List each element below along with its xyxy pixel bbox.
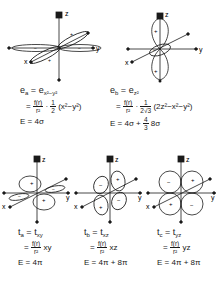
minus-sign: − [99, 182, 103, 188]
y-axis-label: y [138, 194, 142, 202]
minus-sign: − [153, 47, 156, 53]
dz2-orbital-drawing: z y x + + − [108, 0, 218, 84]
orbital-diagram-tb: z y x + + − − [72, 152, 144, 224]
plus-sign: + [48, 57, 51, 63]
x-axis-label: x [2, 203, 6, 210]
minus-sign: − [18, 193, 21, 199]
y-axis-label: y [96, 45, 100, 53]
orbital-diagram-ta: z y x + + − − [0, 152, 72, 224]
energy-value: 8σ [151, 119, 160, 128]
orbital-diagram-ea: z y x + + − − [0, 0, 110, 82]
equation-eb: eb = ez² = f(r)r² · 12√3 (2z²−x²−y²) E =… [110, 86, 193, 131]
subscript: xy [37, 232, 43, 238]
equation-tc: tc = tyz = f(r)r² yz E = 4π + 8π [157, 228, 201, 267]
dxz-orbital-drawing: z y x + + − − [72, 152, 144, 224]
subscript: x²−y² [44, 90, 58, 96]
plus-sign: + [70, 31, 73, 37]
x-axis-label: x [74, 203, 78, 210]
dxy-orbital-drawing: z y x + + − − [0, 152, 72, 224]
subscript: yz [175, 232, 181, 238]
fraction: f(r)r² [33, 99, 43, 114]
minus-sign: − [78, 45, 81, 51]
polynomial: (2z²−x²−y²) [153, 102, 192, 111]
y-axis-label: y [211, 194, 215, 202]
energy-label: E [84, 258, 89, 267]
plus-sign: + [30, 180, 34, 186]
minus-sign: − [190, 202, 194, 208]
z-axis-label: z [186, 156, 190, 163]
energy-value: = 4σ [28, 117, 44, 126]
orbital-diagram-eb: z y x + + − [108, 0, 218, 84]
plus-sign: + [154, 28, 158, 34]
energy-value: = 4π + 8π [92, 258, 128, 267]
fraction: f(r)r² [97, 240, 107, 255]
equation-ta: ta = txy = f(r)r² xy E = 4π [18, 228, 51, 267]
x-axis-label: x [125, 59, 129, 66]
energy-label: E [18, 258, 23, 267]
fraction: f(r)r² [170, 240, 180, 255]
subscript: xz [103, 232, 109, 238]
polynomial: yz [182, 243, 190, 252]
plus-sign: + [99, 204, 103, 210]
equation-tb: tb = txz = f(r)r² xz E = 4π + 8π [84, 228, 128, 267]
subscript: a [21, 232, 24, 238]
fraction: 12 [50, 99, 56, 114]
energy-label: E [157, 258, 162, 267]
equation-ea: ea = ex²−y² = f(r)r² · 12 (x²−y²) E = 4σ [20, 86, 82, 126]
plus-sign: + [42, 197, 46, 203]
orbital-diagram-tc: z y x + + − − [144, 152, 218, 224]
minus-sign: − [34, 45, 37, 51]
subscript: b [87, 232, 90, 238]
polynomial: xz [109, 243, 117, 252]
minus-sign: − [117, 197, 121, 203]
fraction: f(r)r² [123, 99, 133, 114]
plus-sign: + [116, 176, 120, 182]
energy-value: = 4σ + [118, 119, 143, 128]
dx2-y2-orbital-drawing: z y x + + − − [0, 0, 110, 82]
z-axis-label: z [65, 10, 69, 17]
plus-sign: + [154, 68, 158, 74]
fraction: f(r)r² [31, 240, 41, 255]
y-axis-label: y [199, 46, 203, 54]
subscript: a [25, 90, 28, 96]
minus-sign: − [52, 186, 55, 192]
subscript: c [160, 232, 163, 238]
plus-sign: + [169, 201, 173, 207]
polynomial: (x²−y²) [58, 102, 81, 111]
z-axis-label: z [115, 156, 119, 163]
z-axis-label: z [42, 156, 46, 163]
minus-sign: − [167, 179, 171, 185]
subscript: z² [134, 90, 139, 96]
energy-value: = 4π + 8π [165, 258, 201, 267]
plus-sign: + [191, 177, 195, 183]
fraction: 43 [143, 116, 149, 131]
y-axis-label: y [66, 194, 70, 202]
dyz-orbital-drawing: z y x + + − − [144, 152, 218, 224]
x-axis-label: x [146, 203, 150, 210]
energy-label: E [110, 119, 115, 128]
fraction: 12√3 [140, 99, 151, 114]
z-axis-label: z [165, 11, 169, 18]
subscript: b [115, 90, 118, 96]
polynomial: xy [43, 243, 51, 252]
x-axis-label: x [24, 58, 28, 65]
energy-label: E [20, 117, 25, 126]
energy-value: = 4π [26, 258, 43, 267]
